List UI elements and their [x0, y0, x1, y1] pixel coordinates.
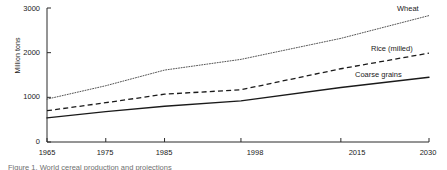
y-axis-tick-label-2000: 2000 — [14, 48, 40, 57]
y-axis-tick-label-1000: 1000 — [14, 92, 40, 101]
y-axis-tick-label-3000: 3000 — [14, 4, 40, 13]
figure-caption: Figure 1. World cereal production and pr… — [8, 163, 172, 170]
x-axis-ticks — [47, 138, 429, 142]
y-axis-ticks — [47, 8, 51, 142]
series-line-coarse-grains — [47, 77, 429, 118]
x-axis-tick-label-2030: 2030 — [408, 148, 447, 157]
series-line-rice-milled — [47, 53, 429, 111]
x-axis-tick-label-1985: 1985 — [144, 148, 184, 157]
series-line-wheat — [47, 16, 429, 100]
data-series-group — [47, 16, 429, 118]
x-axis-tick-label-1965: 1965 — [27, 148, 67, 157]
line-chart: Million tons 3000 2000 1000 0 1965 1975 … — [0, 0, 447, 170]
series-label-rice-milled: Rice (milled) — [371, 44, 413, 53]
chart-plot-area — [0, 0, 447, 170]
x-axis-tick-label-2015: 2015 — [337, 148, 377, 157]
x-axis-tick-label-1998: 1998 — [235, 148, 275, 157]
x-axis-tick-label-1975: 1975 — [85, 148, 125, 157]
series-label-wheat: Wheat — [397, 4, 419, 13]
y-axis-tick-label-0: 0 — [14, 137, 40, 146]
series-label-coarse-grains: Coarse grains — [355, 70, 402, 79]
